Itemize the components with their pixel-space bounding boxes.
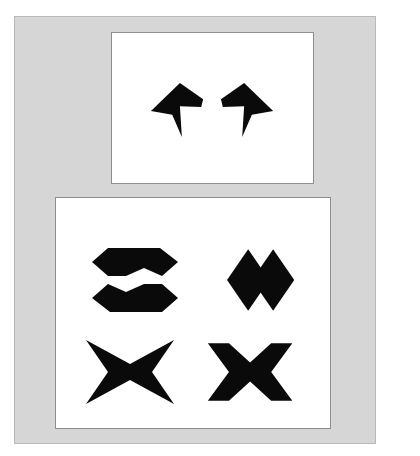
stimulus-shape-2-arrow-notched-right bbox=[220, 81, 276, 139]
scan-artifact-text bbox=[10, 0, 36, 11]
option-a-band-top bbox=[92, 248, 178, 276]
option-d-cross-polygon bbox=[208, 343, 292, 401]
option-b-twin-diamonds-icon[interactable] bbox=[204, 246, 300, 314]
stimulus-shape-1-arrow-notched-left bbox=[150, 81, 206, 139]
option-c-star-polygon bbox=[86, 340, 174, 404]
stimulus-shape-1-polygon bbox=[151, 83, 203, 137]
option-a-band-bottom bbox=[92, 284, 178, 312]
option-b-diamond-right bbox=[252, 249, 294, 310]
stimulus-shape-2-polygon bbox=[221, 83, 273, 137]
stimulus-panel bbox=[111, 32, 314, 184]
option-d-saltire-cross-icon[interactable] bbox=[204, 338, 300, 406]
options-panel bbox=[55, 197, 331, 429]
option-a-stacked-hexagon-arrows-icon[interactable] bbox=[82, 246, 182, 314]
task-board bbox=[14, 16, 376, 444]
option-c-four-point-star-icon[interactable] bbox=[82, 338, 182, 406]
